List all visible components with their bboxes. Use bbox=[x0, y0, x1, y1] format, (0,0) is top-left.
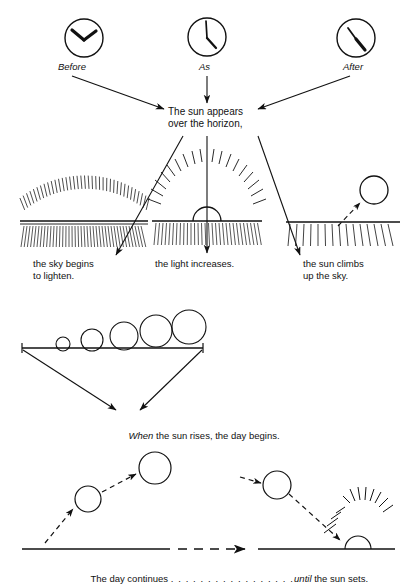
day-caption-part1: The day continues bbox=[90, 573, 170, 584]
diagram-artwork bbox=[0, 0, 414, 585]
sun-setting bbox=[345, 536, 371, 549]
rise-circle-5 bbox=[172, 310, 206, 344]
day-caption-part2: the sun sets. bbox=[312, 573, 369, 584]
sun-noon bbox=[139, 452, 171, 484]
diagram-canvas: Before As After The sun appears over the… bbox=[0, 0, 414, 585]
rise-circle-2 bbox=[81, 329, 103, 351]
day-caption-italic: until bbox=[294, 573, 311, 584]
scene-light-increases-art bbox=[148, 149, 266, 245]
scene-sky-lightens-caption-line2: to lighten. bbox=[33, 270, 74, 282]
rise-caption-rest: the sun rises, the day begins. bbox=[153, 430, 279, 441]
day-caption-dots: . . . . . . . . . . . . . . . . . bbox=[171, 573, 294, 584]
center-caption-line2: over the horizon, bbox=[168, 118, 243, 130]
rise-sequence-art bbox=[22, 310, 206, 410]
scene-sky-lightens-art bbox=[20, 176, 149, 248]
caption-to-scenes-arrows bbox=[116, 136, 300, 255]
clock-before-icon bbox=[65, 19, 103, 57]
scene-sun-climbs-caption-line1: the sun climbs bbox=[303, 258, 364, 270]
center-caption-line1: The sun appears bbox=[168, 106, 243, 118]
clock-label-as: As bbox=[199, 61, 210, 73]
scene-sun-climbs-caption-line2: up the sky. bbox=[303, 270, 348, 282]
rise-caption-italic: When bbox=[129, 430, 154, 441]
scene-sky-lightens-caption-line1: the sky begins bbox=[33, 258, 94, 270]
clock-label-after: After bbox=[343, 61, 363, 73]
sun-morning bbox=[75, 486, 101, 512]
clock-as-icon bbox=[188, 18, 226, 56]
rise-circle-1 bbox=[56, 337, 70, 351]
day-arc-caption: The day continues . . . . . . . . . . . … bbox=[80, 561, 368, 585]
clock-after-icon bbox=[337, 19, 375, 57]
sun-afternoon bbox=[263, 471, 291, 499]
rise-circle-4 bbox=[140, 315, 172, 347]
clock-label-before: Before bbox=[58, 61, 86, 73]
scene-sun-climbs-art bbox=[286, 176, 400, 246]
clock-to-caption-arrows bbox=[72, 76, 350, 109]
rise-sequence-caption: When the sun rises, the day begins. bbox=[118, 418, 280, 453]
scene-light-increases-caption-line1: the light increases. bbox=[155, 258, 234, 270]
rise-circle-3 bbox=[110, 322, 138, 350]
day-arc-art bbox=[22, 452, 395, 549]
